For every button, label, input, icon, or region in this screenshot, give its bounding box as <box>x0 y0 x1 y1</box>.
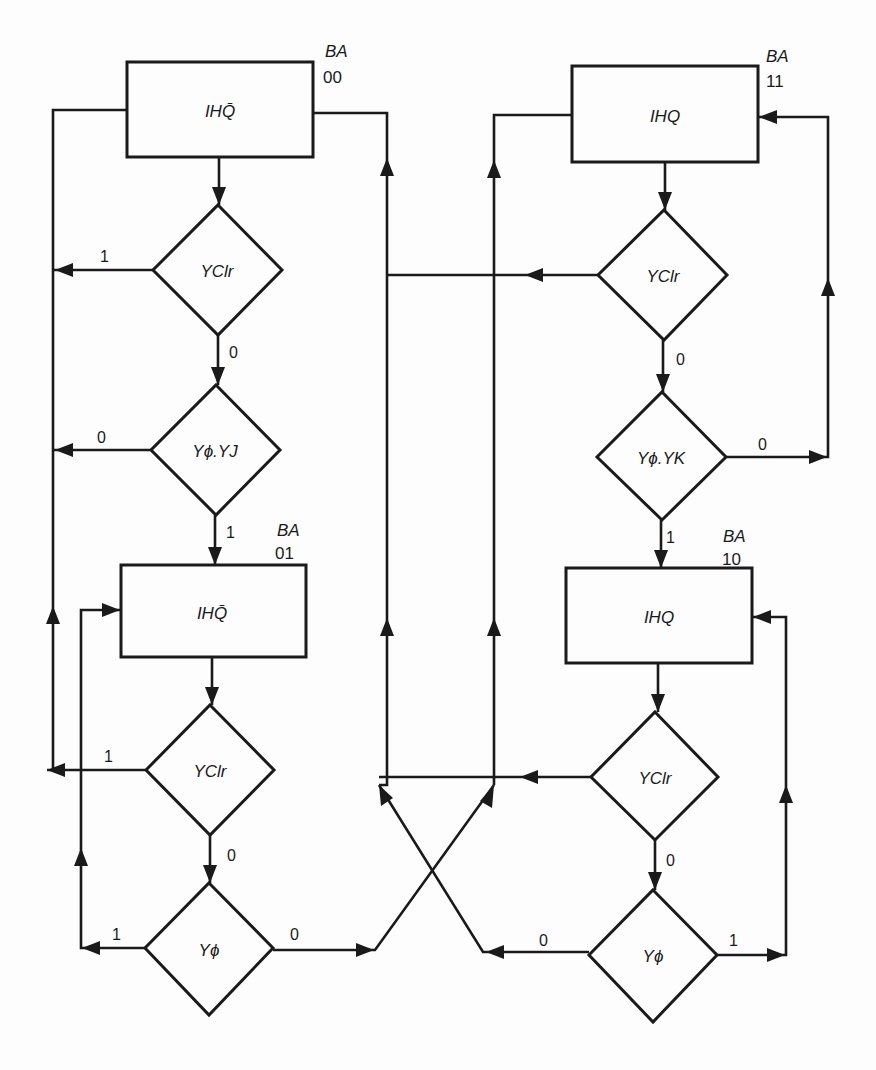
edge-bus-mid-left <box>313 113 387 785</box>
decision-d11-jk: Yϕ.YK 0 1 <box>597 392 767 546</box>
state-01: IHQ̄ BA 01 <box>121 521 306 657</box>
arrow-left-icon <box>520 770 538 784</box>
arrow-down-icon <box>656 374 670 392</box>
decision-condition: YClr <box>200 262 234 281</box>
edge-label: 1 <box>226 524 235 541</box>
arrow-left-icon <box>753 610 771 624</box>
state-00: IHQ̄ BA 00 <box>127 42 348 157</box>
decision-condition: YClr <box>193 762 227 781</box>
state-11: IHQ BA 11 <box>572 47 789 162</box>
arrow-down-icon <box>203 865 217 883</box>
state-output: IHQ̄ <box>197 604 227 623</box>
edge-d11jk-0 <box>726 117 828 457</box>
decision-condition: YClr <box>646 267 680 286</box>
decision-condition: Yϕ <box>199 941 220 960</box>
state-ba-label: BA <box>277 521 300 540</box>
edge-label: 0 <box>290 926 299 943</box>
arrow-up-icon <box>74 848 88 866</box>
arrow-up-icon <box>821 278 835 296</box>
edge-label: 1 <box>666 529 675 546</box>
arrow-up-icon <box>487 160 501 178</box>
state-code: 01 <box>275 544 294 563</box>
decision-d01-clr: YClr 1 0 <box>104 705 274 864</box>
edge-label: 1 <box>729 932 738 949</box>
arrow-right-icon <box>809 450 827 464</box>
state-ba-label: BA <box>766 47 789 66</box>
edge-bus-left <box>53 110 127 770</box>
state-10: IHQ BA 10 <box>566 527 752 663</box>
edge-label: 0 <box>227 847 236 864</box>
arrow-up-icon <box>380 158 394 176</box>
arrow-left-icon <box>759 110 777 124</box>
arrow-right-icon <box>767 948 785 962</box>
edge-d01clk-0 <box>273 785 494 950</box>
decision-d00-clr: YClr 1 0 <box>100 205 282 361</box>
arrow-up-icon <box>487 618 501 636</box>
arrow-down-icon <box>654 550 668 568</box>
arrow-right-icon <box>356 943 374 957</box>
arrow-up-icon <box>380 618 394 636</box>
arrow-left-icon <box>55 263 73 277</box>
arrow-up-icon <box>779 785 793 803</box>
arrow-up-icon <box>46 606 60 624</box>
edge-label: 0 <box>676 351 685 368</box>
state-ba-label: BA <box>325 42 348 61</box>
edge-label: 0 <box>539 932 548 949</box>
asm-flowchart: IHQ̄ BA 00 IHQ̄ BA 01 IHQ BA 11 IHQ BA 1… <box>0 0 876 1070</box>
edge-d01clk-1 <box>81 610 145 948</box>
arrow-down-icon <box>208 547 222 565</box>
edge-label: 1 <box>100 248 109 265</box>
decision-condition: YClr <box>638 769 672 788</box>
state-ba-label: BA <box>723 527 746 546</box>
arrow-down-icon <box>651 694 665 712</box>
state-code: 10 <box>722 550 741 569</box>
arrow-down-icon <box>212 187 226 205</box>
arrowheads <box>46 110 835 962</box>
decision-d10-clk: Yϕ 0 1 <box>539 890 738 1022</box>
edge-d10clk-0 <box>379 785 589 952</box>
arrow-down-icon <box>658 192 672 210</box>
edge-label: 0 <box>229 344 238 361</box>
state-code: 00 <box>323 68 342 87</box>
arrow-left-icon <box>47 763 65 777</box>
arrow-right-icon <box>102 603 120 617</box>
arrow-left-icon <box>486 945 504 959</box>
decision-condition: Yϕ <box>643 947 664 966</box>
state-output: IHQ̄ <box>205 102 235 121</box>
arrow-left-icon <box>55 443 73 457</box>
edge-label: 1 <box>104 748 113 765</box>
arrow-diagonal-icon <box>480 785 494 808</box>
state-code: 11 <box>766 72 784 91</box>
arrow-left-icon <box>82 941 100 955</box>
edge-label: 1 <box>112 926 121 943</box>
edge-d10clk-1 <box>717 617 786 955</box>
state-output: IHQ <box>644 608 674 627</box>
edge-bus-mid-right <box>494 115 572 785</box>
arrow-down-icon <box>648 872 662 890</box>
edge-label: 0 <box>666 852 675 869</box>
arrow-left-icon <box>525 268 543 282</box>
state-output: IHQ <box>650 107 680 126</box>
decision-condition: Yϕ.YK <box>637 449 686 468</box>
arrow-down-icon <box>211 367 225 385</box>
decision-d00-jk: Yϕ.YJ 0 1 <box>97 385 280 541</box>
arrow-down-icon <box>205 687 219 705</box>
decision-condition: Yϕ.YJ <box>192 442 238 461</box>
edge-label: 0 <box>97 429 106 446</box>
connectors <box>47 110 828 955</box>
edge-label: 0 <box>758 436 767 453</box>
